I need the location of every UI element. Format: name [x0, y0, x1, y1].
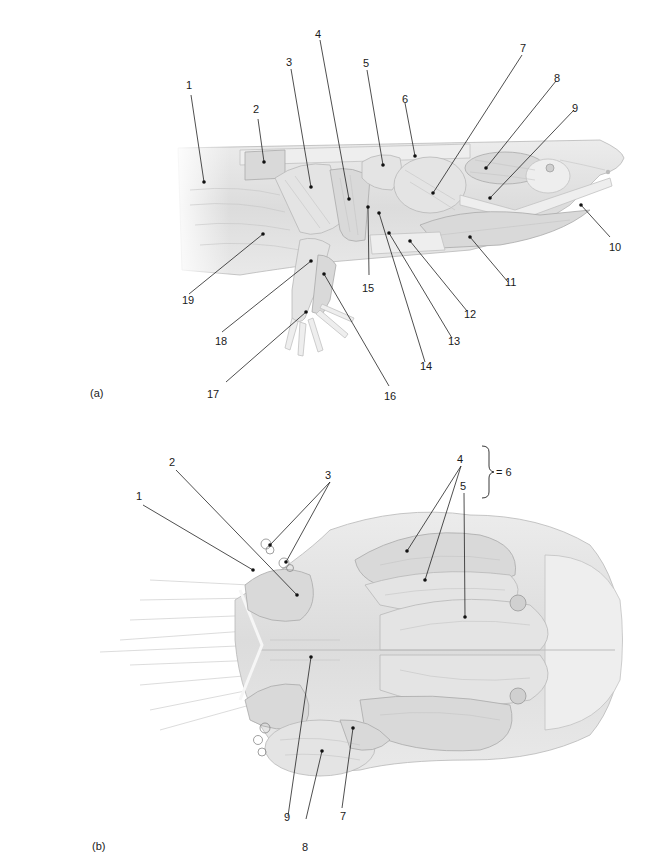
callout-a-16: 16: [384, 390, 396, 402]
callout-a-7: 7: [520, 42, 526, 54]
panel-b-ventral-view: [100, 512, 623, 776]
callout-a-10: 10: [609, 241, 621, 253]
callout-b-5: 5: [460, 480, 466, 492]
panel-b-label: (b): [92, 840, 105, 852]
callout-a-11: 11: [505, 276, 516, 288]
shoulder-muscle-1-2: [245, 569, 313, 621]
callout-b-1: 1: [136, 490, 142, 502]
callout-b-2: 2: [169, 456, 175, 468]
ventral-strip: [370, 232, 445, 254]
panel-a-lateral-view: [170, 140, 624, 356]
callout-a-19: 19: [182, 294, 194, 306]
bracket-note: = 6: [496, 466, 512, 478]
eye-icon: [510, 595, 526, 611]
eye-icon: [510, 688, 526, 704]
callout-a-1: 1: [186, 79, 192, 91]
callout-a-14: 14: [420, 360, 432, 372]
grouping-bracket: [482, 446, 494, 498]
callout-a-3: 3: [286, 56, 292, 68]
callout-a-8: 8: [554, 72, 560, 84]
callout-a-13: 13: [448, 335, 460, 347]
callout-b-7: 7: [340, 810, 346, 822]
callout-a-18: 18: [215, 335, 227, 347]
callout-a-2: 2: [253, 103, 259, 115]
callout-a-15: 15: [362, 282, 374, 294]
anatomy-figure: 1 2 3 4 5 6 7 8 9 10 11 12 13 14 15 16 1…: [0, 0, 663, 865]
callout-b-8: 8: [302, 841, 308, 853]
callout-a-4: 4: [315, 28, 321, 40]
callout-b-4: 4: [457, 453, 463, 465]
callout-a-6: 6: [402, 93, 408, 105]
callout-b-9: 9: [284, 811, 290, 823]
nostril-icon: [606, 170, 610, 174]
panel-a-label: (a): [90, 387, 103, 399]
eye-icon: [546, 164, 554, 172]
eye-region: [526, 159, 570, 193]
callout-a-12: 12: [464, 308, 476, 320]
callout-b-3: 3: [325, 469, 331, 481]
tail-fade: [170, 140, 230, 280]
callout-a-5: 5: [363, 57, 369, 69]
callout-a-17: 17: [207, 388, 219, 400]
callout-a-9: 9: [572, 102, 578, 114]
